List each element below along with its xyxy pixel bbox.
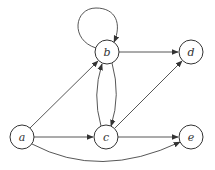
nodes: a b c d e: [10, 40, 203, 149]
node-e-label: e: [188, 131, 195, 144]
edge-b-c: [111, 63, 116, 126]
node-d: d: [179, 40, 203, 64]
node-c: c: [94, 125, 118, 149]
edge-c-d: [115, 61, 182, 128]
node-b-label: b: [103, 46, 110, 59]
node-d-label: d: [187, 46, 194, 59]
node-c-label: c: [103, 131, 109, 144]
directed-graph: a b c d e: [0, 0, 215, 170]
node-e: e: [179, 125, 203, 149]
edge-c-b: [97, 64, 102, 126]
node-b: b: [95, 40, 119, 64]
node-a: a: [10, 125, 34, 149]
node-a-label: a: [19, 131, 26, 144]
edge-a-b: [30, 61, 98, 128]
